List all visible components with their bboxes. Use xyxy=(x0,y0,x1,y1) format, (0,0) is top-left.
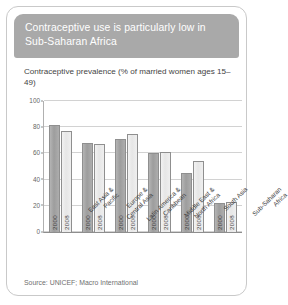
bar-group: 20002008 xyxy=(49,101,72,232)
y-axis-tick-100: 100 xyxy=(29,97,40,104)
bar-year-label: 2000 xyxy=(51,215,58,230)
y-axis-tick-40: 40 xyxy=(33,175,40,182)
y-axis-tick-20: 20 xyxy=(33,201,40,208)
bar-2008: 2008 xyxy=(61,131,72,232)
y-axis-tick-60: 60 xyxy=(33,149,40,156)
chart-subtitle: Contraceptive prevalence (% of married w… xyxy=(24,66,239,88)
chart-axes: 020406080100 200020082000200820002008200… xyxy=(43,101,242,233)
chart-source: Source: UNICEF; Macro International xyxy=(24,279,138,286)
chart-bars: 2000200820002008200020082000200820002008… xyxy=(44,101,242,232)
chart-category-labels: East Asia & PacificEurope & Central Asia… xyxy=(43,235,244,279)
chart-card: Contraceptive use is particularly low in… xyxy=(6,6,247,296)
card-header: Contraceptive use is particularly low in… xyxy=(14,14,239,58)
page-title: Contraceptive use is particularly low in… xyxy=(25,21,229,49)
bar-2000: 2000 xyxy=(49,125,60,232)
y-axis-tick-80: 80 xyxy=(33,123,40,130)
y-axis-tick-0: 0 xyxy=(36,228,40,235)
